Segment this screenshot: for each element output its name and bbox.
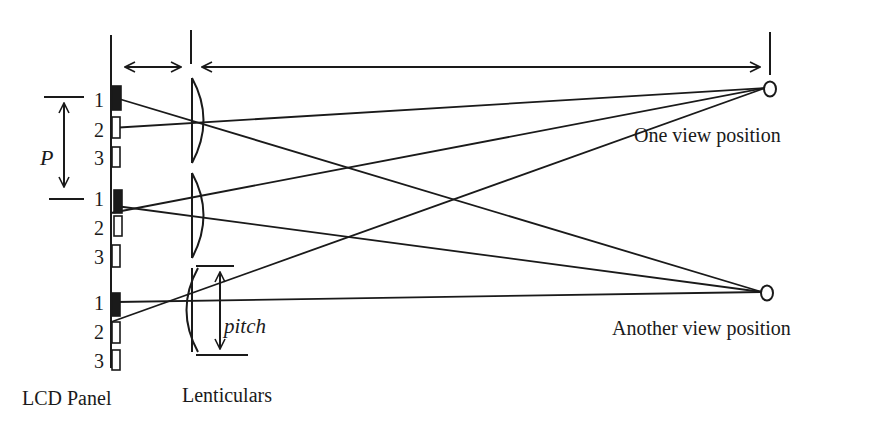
pixel-3-empty (112, 350, 120, 370)
lcd-panel-label: LCD Panel (22, 387, 112, 409)
pixel-number: 2 (94, 321, 104, 343)
pitch-label: pitch (222, 314, 266, 338)
one-view-position-label: One view position (634, 124, 781, 147)
pixel-number: 1 (94, 188, 104, 210)
pixel-number: 3 (94, 246, 104, 268)
pixel-number: 3 (94, 350, 104, 372)
pixel-number: 1 (94, 292, 104, 314)
lcd-pixels (112, 86, 122, 370)
pixel-1-filled (114, 190, 122, 213)
p-label: P (39, 145, 53, 170)
pixel-1-filled (112, 86, 121, 110)
pixel-2-empty (114, 216, 122, 236)
lenticular-diagram: 1 2 3 1 2 3 1 2 3 P pitch LCD Panel Lent… (0, 0, 878, 428)
one-view-position-marker (764, 82, 776, 97)
pixel-number: 3 (94, 147, 104, 169)
pixel-1-filled (112, 293, 120, 316)
pixel-number: 1 (94, 89, 104, 111)
pixel-3-empty (112, 147, 120, 167)
another-view-position-marker (761, 286, 773, 301)
lenticulars-label: Lenticulars (182, 384, 272, 406)
pixel-2-empty (112, 322, 120, 343)
pixel-number: 2 (94, 217, 104, 239)
another-view-position-label: Another view position (612, 317, 791, 340)
lenticular-lens-3 (187, 268, 199, 352)
pixel-2-empty (112, 117, 120, 138)
pixel-number: 2 (94, 119, 104, 141)
pixel-3-empty (112, 245, 120, 267)
